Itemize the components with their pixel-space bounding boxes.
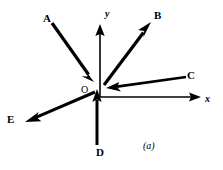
vector-a-shaft	[52, 23, 89, 75]
vector-label-c: C	[187, 70, 195, 81]
vector-label-e: E	[7, 114, 14, 125]
vector-diagram-figure: A B C D E O y x (a)	[0, 0, 223, 170]
vector-b	[104, 22, 151, 85]
vector-a	[52, 23, 94, 82]
vector-label-b: B	[154, 10, 161, 21]
x-axis-label: x	[205, 94, 210, 104]
vector-label-d: D	[96, 147, 104, 158]
figure-caption: (a)	[143, 141, 155, 151]
y-axis-label: y	[105, 9, 109, 19]
origin-label: O	[81, 85, 88, 95]
axes-group	[95, 24, 201, 102]
vector-c	[106, 77, 186, 91]
vector-b-shaft	[104, 33, 144, 86]
vector-diagram-canvas	[0, 0, 223, 170]
vector-c-shaft	[117, 77, 186, 87]
vector-label-a: A	[43, 13, 51, 24]
vector-e-shaft	[36, 92, 95, 117]
vector-e	[25, 92, 95, 122]
